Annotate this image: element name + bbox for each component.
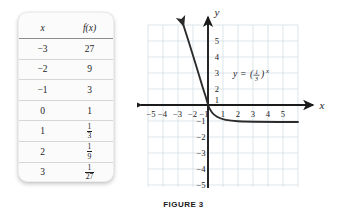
x-tick-5: 5 — [281, 109, 285, 119]
x-tick-3: 3 — [251, 109, 255, 119]
cell-fx: 9 — [66, 59, 113, 80]
cell-fx: 19 — [66, 141, 113, 162]
fraction-numerator: 1 — [85, 164, 95, 172]
table-header: x f(x) — [19, 13, 113, 39]
column-header-x: x — [19, 13, 66, 39]
cell-x: 0 — [19, 100, 66, 121]
equation-lhs: y — [232, 69, 238, 79]
table-row: 01 — [19, 100, 113, 121]
equation-fraction-numerator: 1 — [255, 68, 258, 75]
table-row: −13 — [19, 80, 113, 101]
x-tick-4: 4 — [266, 109, 271, 119]
column-header-fx: f(x) — [66, 13, 113, 39]
cell-x: −1 — [19, 80, 66, 101]
cell-x: 2 — [19, 141, 66, 162]
fraction-denominator: 3 — [87, 131, 93, 140]
table-row: 219 — [19, 141, 113, 162]
coordinate-graph: −5 −4 −3 −2 −1 1 2 3 4 5 5 4 3 2 1 −1 −2… — [137, 2, 335, 192]
fraction-numerator: 1 — [87, 123, 93, 131]
x-tick-neg5: −5 — [146, 109, 155, 119]
fraction-denominator: 9 — [87, 151, 93, 160]
y-tick-neg2: −2 — [196, 132, 205, 142]
x-axis-label: x — [319, 99, 325, 111]
table-row: −29 — [19, 59, 113, 80]
fraction: 13 — [87, 123, 93, 140]
cell-x: 1 — [19, 121, 66, 142]
equation-fraction-denominator: 3 — [254, 75, 258, 82]
equation-close-paren: ) — [260, 69, 264, 80]
cell-x: −2 — [19, 59, 66, 80]
value-table-card: x f(x) −327−29−13011132193127 — [18, 12, 114, 182]
y-tick-5: 5 — [215, 36, 219, 46]
y-tick-neg4: −4 — [196, 164, 206, 174]
cell-x: 3 — [19, 162, 66, 182]
y-tick-3: 3 — [215, 68, 219, 78]
figure-caption-text: FIGURE 3 — [133, 200, 204, 209]
cell-fx: 27 — [66, 39, 113, 60]
grid-lines — [148, 25, 298, 187]
cell-fx: 3 — [66, 80, 113, 101]
equation-exponent: x — [265, 67, 269, 74]
figure-caption: FIGURE 3 — [0, 200, 337, 209]
x-tick-2: 2 — [236, 109, 240, 119]
fraction: 19 — [87, 143, 93, 160]
table-row: 113 — [19, 121, 113, 142]
x-tick-neg4: −4 — [158, 109, 168, 119]
y-tick-2: 2 — [215, 84, 219, 94]
table-body: −327−29−13011132193127 — [19, 39, 113, 183]
y-tick-neg3: −3 — [196, 148, 205, 158]
table-header-row: x f(x) — [19, 13, 113, 39]
table-row: 3127 — [19, 162, 113, 182]
y-axis-label: y — [214, 6, 220, 18]
cell-fx: 127 — [66, 162, 113, 182]
y-tick-neg5: −5 — [196, 180, 205, 190]
equation-open-paren: ( — [250, 69, 254, 80]
cell-fx: 1 — [66, 100, 113, 121]
graph-svg: −5 −4 −3 −2 −1 1 2 3 4 5 5 4 3 2 1 −1 −2… — [137, 2, 335, 192]
cell-x: −3 — [19, 39, 66, 60]
equation-equals: = — [240, 69, 246, 79]
value-table: x f(x) −327−29−13011132193127 — [19, 13, 113, 182]
y-tick-4: 4 — [215, 52, 220, 62]
y-tick-neg1: −1 — [196, 116, 205, 126]
column-header-fx-text: f(x) — [83, 23, 96, 33]
cell-fx: 13 — [66, 121, 113, 142]
equation-annotation: y = ( 1 3 ) x — [232, 67, 269, 83]
y-tick-1: 1 — [215, 95, 219, 105]
fraction: 127 — [85, 164, 95, 181]
table-row: −327 — [19, 39, 113, 60]
x-tick-neg3: −3 — [173, 109, 182, 119]
x-tick-1: 1 — [221, 109, 225, 119]
fraction-numerator: 1 — [87, 143, 93, 151]
fraction-denominator: 27 — [85, 172, 95, 181]
